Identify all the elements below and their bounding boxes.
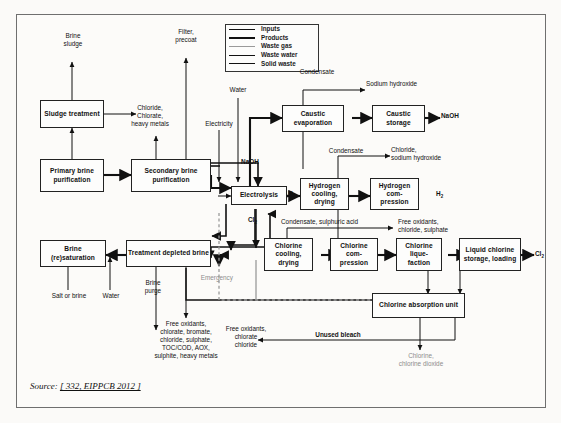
source-reference: [ 332, EIPPCB 2012 ] — [60, 381, 141, 391]
node-electrolysis[interactable]: Electrolysis — [231, 186, 287, 205]
label-chloride-sodium-hydroxide: Chloride, sodium hydroxide — [391, 146, 477, 162]
label-condensate-sulphuric-acid: Condensate, sulphuric acid — [281, 218, 405, 226]
label-salt-or-brine: Salt or brine — [38, 292, 100, 300]
label-emergency: Emergency — [185, 274, 233, 282]
label-h2-product: H2 — [436, 190, 450, 200]
cl2-subscript: 2 — [254, 220, 257, 225]
label-free-oxidants-chlorate-chloride: Free oxidants, chlorate chloride — [204, 325, 288, 349]
legend-row: Inputs — [226, 25, 318, 34]
figure-canvas: Inputs Products Waste gas Waste water So… — [0, 0, 561, 423]
legend-row: Solid waste — [226, 59, 318, 68]
label-sodium-hydroxide: Sodium hydroxide — [366, 80, 450, 88]
label-filter-precoat: Filter, precoat — [160, 28, 212, 44]
node-hydrogen-compression[interactable]: Hydrogen com- pression — [370, 178, 419, 210]
label-water-top: Water — [219, 86, 257, 94]
legend-row: Products — [226, 34, 318, 43]
legend-swatch-waste-water — [229, 55, 255, 56]
node-treatment-depleted-brine[interactable]: Treatment depleted brine — [126, 240, 211, 267]
label-unused-bleach: Unused bleach — [300, 331, 376, 339]
node-caustic-storage[interactable]: Caustic storage — [372, 105, 425, 132]
legend-label: Waste gas — [261, 43, 292, 49]
legend: Inputs Products Waste gas Waste water So… — [225, 24, 319, 72]
legend-label: Solid waste — [261, 61, 296, 67]
legend-label: Waste water — [261, 52, 298, 58]
legend-label: Inputs — [261, 26, 280, 32]
h2-subscript: 2 — [293, 194, 296, 199]
label-free-oxidants-chloride-sulphate: Free oxidants, chloride, sulphate — [398, 218, 484, 234]
legend-swatch-inputs — [229, 29, 255, 30]
node-sludge-treatment[interactable]: Sludge treatment — [40, 100, 104, 128]
label-water-left: Water — [92, 292, 130, 300]
legend-row: Waste gas — [226, 42, 318, 51]
node-primary-brine-purification[interactable]: Primary brine purification — [40, 159, 104, 192]
legend-row: Waste water — [226, 51, 318, 60]
h2-subscript: 2 — [441, 194, 444, 199]
label-brine-purge: Brine purge — [133, 279, 173, 295]
source-prefix: Source: — [30, 381, 58, 391]
label-condensate-hydrogen: Condensate — [316, 147, 376, 155]
legend-swatch-solid-waste — [229, 63, 255, 64]
label-h2-electrolysis: H2 — [288, 190, 302, 200]
node-chlorine-absorption-unit[interactable]: Chlorine absorption unit — [372, 293, 465, 318]
label-cl2-product: Cl2 — [535, 250, 553, 260]
node-secondary-brine-purification[interactable]: Secondary brine purification — [131, 159, 211, 192]
node-brine-resaturation[interactable]: Brine (re)saturation — [40, 240, 106, 267]
label-condensate-caustic: Condensate — [287, 68, 347, 76]
node-liquid-chlorine-storage-loading[interactable]: Liquid chlorine storage, loading — [459, 238, 521, 271]
source-caption: Source: [ 332, EIPPCB 2012 ] — [30, 381, 141, 391]
label-cl2-electrolysis: Cl2 — [248, 216, 266, 226]
legend-swatch-products — [229, 37, 255, 39]
label-chlorine-chlorine-dioxide: Chlorine, chlorine dioxide — [380, 352, 462, 368]
legend-label: Products — [261, 35, 288, 41]
node-chlorine-liquefaction[interactable]: Chlorine lique- faction — [396, 238, 442, 271]
node-caustic-evaporation[interactable]: Caustic evaporation — [282, 105, 344, 132]
label-naoh-input: NaOH — [233, 158, 267, 166]
node-hydrogen-cooling-drying[interactable]: Hydrogen cooling, drying — [300, 178, 349, 210]
label-chloride-chlorate-heavy-metals: Chloride, Chlorate, heavy metals — [112, 104, 188, 128]
label-electricity: Electricity — [191, 120, 247, 128]
label-brine-sludge: Brine sludge — [48, 32, 98, 48]
node-chlorine-cooling-drying[interactable]: Chlorine cooling, drying — [264, 238, 313, 271]
cl2-subscript: 2 — [541, 254, 544, 259]
node-chlorine-compression[interactable]: Chlorine com- pression — [330, 238, 378, 271]
legend-swatch-waste-gas — [229, 46, 255, 47]
label-naoh-product: NaOH — [441, 112, 475, 120]
